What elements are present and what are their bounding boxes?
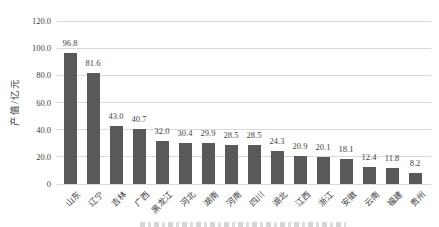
bar-value-label: 81.6 [78,58,108,68]
bar-四川 [248,145,261,184]
bar-河北 [179,143,192,184]
bar-安徽 [340,159,353,184]
bar-浙江 [317,157,330,184]
gridline [57,21,431,22]
y-tick-label: 40.0 [17,125,51,135]
bar-湖北 [271,151,284,184]
bar-value-label: 96.8 [55,38,85,48]
bar-江西 [294,156,307,184]
bar-辽宁 [87,73,100,184]
bar-福建 [386,168,399,184]
bar-value-label: 8.2 [400,158,430,168]
caption-clipped [140,222,346,227]
gridline [57,75,431,76]
gridline [57,102,431,103]
bar-山东 [64,53,77,184]
y-tick-label: 60.0 [17,98,51,108]
bar-chart: 产值/亿元 020.040.060.080.0100.0120.0 96.881… [0,0,439,227]
y-tick-label: 120.0 [17,16,51,26]
bar-value-label: 40.7 [124,114,154,124]
bar-吉林 [110,126,123,184]
bar-广西 [133,129,146,184]
y-tick-label: 100.0 [17,43,51,53]
y-tick-label: 80.0 [17,70,51,80]
bar-贵州 [409,173,422,184]
y-tick-label: 20.0 [17,152,51,162]
y-tick-label: 0 [17,179,51,189]
bar-黑龙江 [156,141,169,184]
bar-河南 [225,145,238,184]
bar-湖南 [202,143,215,184]
bar-云南 [363,167,376,184]
gridline [57,48,431,49]
